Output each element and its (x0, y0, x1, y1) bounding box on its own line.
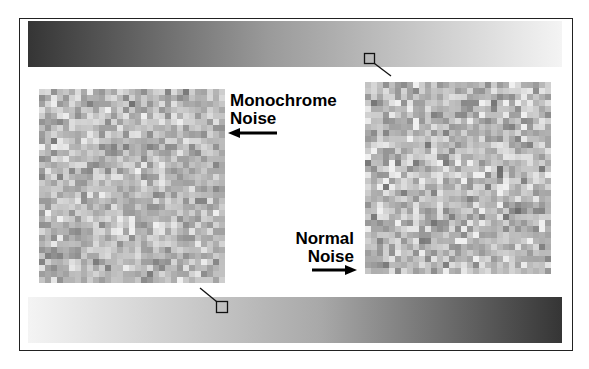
monochrome-noise-panel (39, 89, 225, 283)
normal-label-line2: Noise (293, 248, 354, 266)
top-gradient-bar (28, 21, 562, 67)
normal-noise-panel (365, 82, 551, 274)
monochrome-noise-label: Monochrome Noise (230, 92, 337, 128)
monochrome-label-line2: Noise (230, 110, 337, 128)
monochrome-label-line1: Monochrome (230, 92, 337, 110)
bottom-gradient-bar (28, 297, 562, 343)
normal-label-line1: Normal (293, 230, 354, 248)
normal-noise-label: Normal Noise (293, 230, 354, 266)
